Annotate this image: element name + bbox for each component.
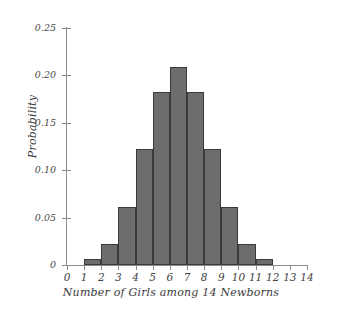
- histogram-bar: [136, 149, 153, 265]
- x-tick-mark: [118, 265, 119, 270]
- x-tick-mark: [136, 265, 137, 270]
- y-tick-label: 0.25: [16, 23, 62, 33]
- y-tick-label: 0.15: [16, 118, 62, 128]
- x-tick-mark: [84, 265, 85, 270]
- x-tick-mark: [256, 265, 257, 270]
- y-tick-label: 0: [16, 260, 62, 270]
- histogram-bar: [153, 92, 170, 265]
- x-tick-label: 14: [295, 272, 319, 283]
- y-tick-label: 0.05: [16, 213, 62, 223]
- x-tick-mark: [67, 265, 68, 270]
- y-tick-label: 0.20: [16, 71, 62, 81]
- x-tick-mark: [273, 265, 274, 270]
- histogram-bar: [187, 92, 204, 265]
- x-tick-mark: [290, 265, 291, 270]
- x-tick-mark: [238, 265, 239, 270]
- histogram-bar: [118, 207, 135, 265]
- histogram-bar: [221, 207, 238, 265]
- x-tick-mark: [101, 265, 102, 270]
- x-tick-mark: [221, 265, 222, 270]
- x-axis-title: Number of Girls among 14 Newborns: [0, 286, 342, 299]
- x-tick-mark: [187, 265, 188, 270]
- x-tick-mark: [153, 265, 154, 270]
- histogram-bar: [84, 259, 101, 265]
- histogram-bar: [170, 67, 187, 265]
- histogram-bar: [256, 259, 273, 265]
- y-tick-label: 0.10: [16, 165, 62, 175]
- probability-histogram-chart: Probability 00.050.100.150.200.25 012345…: [0, 0, 342, 312]
- x-tick-mark: [170, 265, 171, 270]
- histogram-bar: [238, 244, 255, 265]
- x-tick-mark: [204, 265, 205, 270]
- histogram-bar: [101, 244, 118, 265]
- x-tick-mark: [307, 265, 308, 270]
- histogram-bar: [204, 149, 221, 265]
- plot-area: [67, 28, 307, 265]
